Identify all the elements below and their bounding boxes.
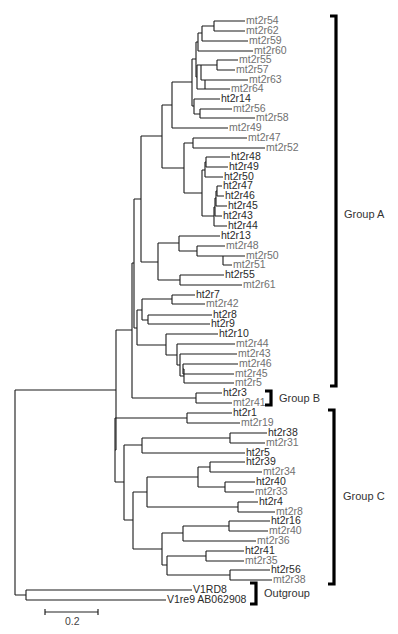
branch bbox=[230, 570, 272, 580]
branch bbox=[198, 467, 225, 487]
branch bbox=[229, 521, 270, 531]
branch bbox=[115, 330, 132, 450]
branch bbox=[225, 482, 255, 492]
leaf-label-mt2r31: mt2r31 bbox=[266, 436, 299, 448]
leaf-label-V1re9: V1re9 AB062908 bbox=[167, 593, 247, 605]
branch bbox=[217, 60, 238, 70]
branch bbox=[162, 105, 184, 168]
group-b-bracket bbox=[265, 391, 271, 405]
branch bbox=[147, 477, 238, 507]
group-c-bracket bbox=[328, 410, 334, 584]
branch bbox=[198, 33, 253, 51]
branch bbox=[167, 556, 230, 575]
scale-bar: 0.2 bbox=[45, 609, 98, 627]
branch bbox=[162, 533, 183, 565]
leaf-label-mt2r61: mt2r61 bbox=[243, 278, 276, 290]
branch bbox=[148, 315, 212, 324]
leaf-label-mt2r38: mt2r38 bbox=[273, 573, 306, 585]
branch bbox=[184, 143, 202, 193]
branch bbox=[202, 26, 248, 41]
phylogenetic-tree: mt2r54mt2r62mt2r59mt2r60mt2r55mt2r57mt2r… bbox=[0, 0, 398, 634]
branch bbox=[183, 364, 238, 374]
branch bbox=[142, 299, 172, 320]
outgroup-bracket bbox=[250, 583, 256, 604]
branch bbox=[115, 418, 187, 482]
leaf-labels: mt2r54mt2r62mt2r59mt2r60mt2r55mt2r57mt2r… bbox=[167, 14, 306, 605]
group-b-label: Group B bbox=[279, 392, 320, 404]
branch bbox=[206, 157, 230, 167]
scale-bar-label: 0.2 bbox=[65, 615, 80, 627]
branch bbox=[183, 526, 256, 541]
branch bbox=[132, 263, 196, 398]
branch bbox=[180, 354, 237, 376]
branch bbox=[206, 551, 244, 561]
branch bbox=[183, 369, 234, 383]
group-a-bracket bbox=[330, 16, 336, 386]
leaf-label-mt2r52: mt2r52 bbox=[266, 141, 299, 153]
group-c-label: Group C bbox=[343, 490, 385, 502]
branch bbox=[205, 162, 223, 177]
branch bbox=[223, 256, 232, 265]
outgroup-label: Outgroup bbox=[264, 587, 310, 599]
group-a-label: Group A bbox=[344, 208, 385, 220]
branch bbox=[194, 99, 220, 114]
branch bbox=[179, 236, 220, 251]
branch bbox=[158, 243, 180, 280]
branch bbox=[15, 390, 116, 595]
branch bbox=[230, 433, 267, 443]
branch bbox=[134, 199, 141, 328]
branch bbox=[214, 21, 245, 31]
branch bbox=[205, 80, 230, 89]
